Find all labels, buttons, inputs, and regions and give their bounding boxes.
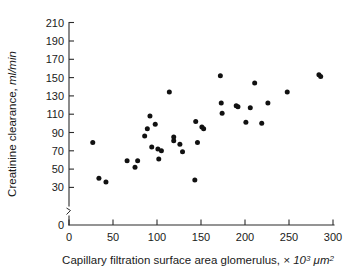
data-point bbox=[177, 142, 182, 147]
data-point bbox=[259, 121, 264, 126]
data-point bbox=[133, 165, 138, 170]
data-point bbox=[135, 158, 140, 163]
y-axis-title-main: Creatinine clearance, bbox=[6, 85, 18, 197]
x-tick-marks bbox=[69, 220, 333, 226]
x-axis-title-main: Capillary filtration surface area glomer… bbox=[62, 254, 283, 266]
data-point bbox=[145, 126, 150, 131]
x-axis-title: Capillary filtration surface area glomer… bbox=[62, 254, 334, 267]
y-tick-label: 170 bbox=[46, 53, 64, 65]
data-point bbox=[171, 138, 176, 143]
y-tick-labels: 210 190 170 150 130 110 90 70 50 30 0 bbox=[46, 17, 64, 232]
y-axis-title-unit: ml/min bbox=[6, 51, 18, 85]
x-tick-label: 150 bbox=[192, 231, 210, 243]
data-point bbox=[252, 80, 257, 85]
data-point bbox=[248, 105, 253, 110]
y-tick-label: 210 bbox=[46, 17, 64, 29]
y-tick-label: 70 bbox=[52, 145, 64, 157]
x-axis-title-unit2: μm bbox=[310, 254, 329, 266]
data-point bbox=[125, 158, 130, 163]
x-tick-label: 200 bbox=[236, 231, 254, 243]
y-axis-break-icon bbox=[67, 208, 71, 215]
y-tick-label: 150 bbox=[46, 72, 64, 84]
data-point bbox=[180, 149, 185, 154]
plot-canvas: 210 190 170 150 130 110 90 70 50 30 0 0 … bbox=[0, 0, 354, 272]
data-point bbox=[147, 113, 152, 118]
data-point bbox=[193, 119, 198, 124]
data-point bbox=[201, 126, 206, 131]
data-point bbox=[96, 176, 101, 181]
x-axis-title-unit: × 10 bbox=[283, 254, 306, 266]
y-tick-label: 190 bbox=[46, 35, 64, 47]
data-point bbox=[156, 157, 161, 162]
data-point bbox=[318, 74, 323, 79]
data-point bbox=[265, 101, 270, 106]
data-point bbox=[195, 140, 200, 145]
data-point bbox=[192, 178, 197, 183]
x-tick-label: 300 bbox=[324, 231, 342, 243]
data-point bbox=[159, 148, 164, 153]
y-tick-label: 130 bbox=[46, 90, 64, 102]
x-tick-label: 50 bbox=[107, 231, 119, 243]
y-axis-title: Creatinine clearance, ml/min bbox=[6, 51, 18, 197]
x-axis-title-exponent2: 2 bbox=[328, 254, 334, 263]
x-tick-label: 0 bbox=[66, 231, 72, 243]
y-tick-marks bbox=[69, 23, 74, 226]
data-point bbox=[218, 73, 223, 78]
data-point bbox=[103, 179, 108, 184]
data-point bbox=[149, 145, 154, 150]
data-point bbox=[219, 101, 224, 106]
y-tick-label: 50 bbox=[52, 163, 64, 175]
data-point bbox=[142, 134, 147, 139]
data-point bbox=[153, 122, 158, 127]
data-point bbox=[235, 104, 240, 109]
data-point bbox=[90, 140, 95, 145]
y-tick-label: 0 bbox=[58, 219, 64, 231]
data-point bbox=[285, 90, 290, 95]
y-tick-label: 90 bbox=[52, 127, 64, 139]
scatter-plot-figure: 210 190 170 150 130 110 90 70 50 30 0 0 … bbox=[0, 0, 354, 272]
x-tick-labels: 0 50 100 150 200 250 300 bbox=[66, 231, 342, 243]
data-points-layer bbox=[90, 72, 323, 184]
data-point bbox=[220, 111, 225, 116]
x-tick-label: 100 bbox=[148, 231, 166, 243]
x-tick-label: 250 bbox=[280, 231, 298, 243]
data-point bbox=[243, 120, 248, 125]
y-tick-label: 110 bbox=[46, 108, 64, 120]
y-tick-label: 30 bbox=[52, 181, 64, 193]
data-point bbox=[167, 90, 172, 95]
